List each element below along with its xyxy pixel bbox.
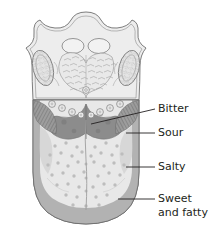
label-salty: Salty xyxy=(158,160,186,173)
label-sweet: Sweet xyxy=(158,192,193,205)
tongue-taste-diagram: Bitter Sour Salty Sweet and fatty xyxy=(0,0,216,229)
label-sweet-line2: and fatty xyxy=(158,206,208,219)
foramen-cecum xyxy=(83,87,90,94)
label-bitter: Bitter xyxy=(158,102,189,115)
label-sour: Sour xyxy=(158,126,184,139)
